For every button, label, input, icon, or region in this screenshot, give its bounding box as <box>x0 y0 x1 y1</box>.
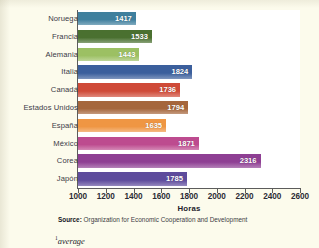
category-label: Corea <box>2 157 78 165</box>
category-label: España <box>2 122 78 130</box>
bar: 1736 <box>78 83 180 96</box>
bar: 1785 <box>78 172 187 185</box>
bar-row: Japón1785 <box>0 170 319 188</box>
x-tick-label: 1800 <box>180 193 198 201</box>
bar-track: 1635 <box>78 117 300 135</box>
category-label: Japón <box>2 175 78 183</box>
chart-plot-area: Noruega1417Francia1533Alemania1443Italia… <box>0 0 319 215</box>
bar: 1635 <box>78 119 166 132</box>
bar-track: 2316 <box>78 152 300 170</box>
bar: 1533 <box>78 30 152 43</box>
category-label: Noruega <box>2 15 78 23</box>
bar-track: 1785 <box>78 170 300 188</box>
source-note: Source: Organization for Economic Cooper… <box>58 216 313 223</box>
bar-row: Francia1533 <box>0 28 319 46</box>
bar-row: Estados Unidos1794 <box>0 99 319 117</box>
x-tick-label: 2000 <box>208 193 226 201</box>
bar-track: 1824 <box>78 63 300 81</box>
category-label: México <box>2 140 78 148</box>
bar-value-label: 1635 <box>145 122 162 130</box>
bar-track: 1533 <box>78 28 300 46</box>
bar-row: México1871 <box>0 135 319 153</box>
x-tick-label: 2600 <box>291 193 309 201</box>
chart-page: Noruega1417Francia1533Alemania1443Italia… <box>0 0 319 248</box>
bar-row: España1635 <box>0 117 319 135</box>
bar-value-label: 1824 <box>171 68 188 76</box>
bar-row: Noruega1417 <box>0 10 319 28</box>
bar-value-label: 1533 <box>131 33 148 41</box>
bar: 1443 <box>78 48 139 61</box>
bar-track: 1736 <box>78 81 300 99</box>
x-tick-label: 1200 <box>97 193 115 201</box>
x-tick-label: 2400 <box>263 193 281 201</box>
bar-rows: Noruega1417Francia1533Alemania1443Italia… <box>0 10 319 188</box>
bar: 1871 <box>78 137 199 150</box>
bar: 2316 <box>78 154 261 167</box>
bar-row: Italia1824 <box>0 63 319 81</box>
x-tick-label: 1600 <box>152 193 170 201</box>
bar-row: Alemania1443 <box>0 46 319 64</box>
bar-track: 1443 <box>78 46 300 64</box>
bar-value-label: 1417 <box>115 15 132 23</box>
x-axis-title: Horas <box>78 204 300 213</box>
x-tick-label: 1400 <box>124 193 142 201</box>
bar-row: Corea2316 <box>0 152 319 170</box>
bar-value-label: 1785 <box>166 175 183 183</box>
bar: 1794 <box>78 101 188 114</box>
category-label: Alemania <box>2 51 78 59</box>
footnote: 1average <box>55 236 85 246</box>
category-label: Estados Unidos <box>2 104 78 112</box>
category-label: Italia <box>2 68 78 76</box>
bar: 1417 <box>78 12 136 25</box>
x-tick-label: 2200 <box>235 193 253 201</box>
x-tick-label: 1000 <box>69 193 87 201</box>
bar-track: 1871 <box>78 135 300 153</box>
source-label: Source: <box>58 216 82 223</box>
footnote-text: average <box>58 237 85 246</box>
bar-track: 1794 <box>78 99 300 117</box>
bar-value-label: 1736 <box>159 86 176 94</box>
category-label: Canadá <box>2 86 78 94</box>
bar-value-label: 1794 <box>167 104 184 112</box>
bar-value-label: 1871 <box>178 140 195 148</box>
bar: 1824 <box>78 65 192 78</box>
bar-value-label: 1443 <box>119 51 136 59</box>
bar-value-label: 2316 <box>240 157 257 165</box>
source-text: Organization for Economic Cooperation an… <box>84 216 248 223</box>
category-label: Francia <box>2 33 78 41</box>
bar-row: Canadá1736 <box>0 81 319 99</box>
bar-track: 1417 <box>78 10 300 28</box>
